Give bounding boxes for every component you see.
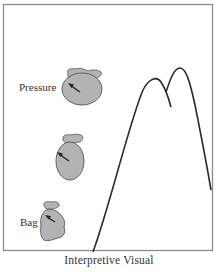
frame-border [4, 5, 213, 251]
bag-oval [56, 134, 84, 180]
bag-knot-bottom [44, 202, 59, 209]
figure: Pressure Bag Interpretive Visual [0, 0, 218, 272]
bag-crumpled [41, 202, 65, 241]
bag-body-middle [56, 142, 84, 180]
label-pressure: Pressure [19, 81, 56, 93]
figure-caption: Interpretive Visual [0, 254, 218, 266]
diagram-canvas [0, 0, 218, 272]
label-bag: Bag [20, 216, 38, 228]
double-peak-curve [93, 79, 171, 252]
bag-pressure [62, 68, 102, 105]
bag-knot-middle [63, 134, 83, 143]
bag-body-top [62, 73, 102, 105]
bag-body-bottom [41, 210, 65, 241]
double-peak-curve-second [166, 68, 211, 190]
